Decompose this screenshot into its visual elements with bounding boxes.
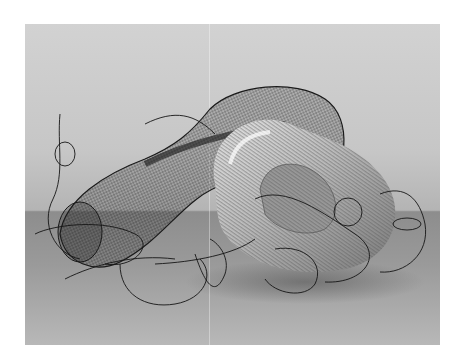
sculpture-illustration	[25, 24, 440, 345]
sculpture-photo	[25, 24, 440, 345]
